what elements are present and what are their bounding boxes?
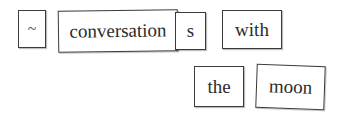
word-tile-s[interactable]: s [175, 12, 206, 50]
tile-label: s [187, 20, 194, 42]
word-tile-the[interactable]: the [194, 66, 244, 107]
word-tile-moon[interactable]: moon [255, 64, 325, 110]
tile-label: ~ [28, 20, 37, 38]
word-tile-tilde[interactable]: ~ [18, 10, 46, 48]
tile-label: the [207, 76, 230, 98]
tile-label: moon [268, 75, 312, 98]
word-tile-conversation[interactable]: conversation [58, 9, 179, 53]
word-tile-with[interactable]: with [222, 10, 282, 49]
tile-label: conversation [69, 19, 166, 42]
tile-label: with [235, 19, 269, 41]
